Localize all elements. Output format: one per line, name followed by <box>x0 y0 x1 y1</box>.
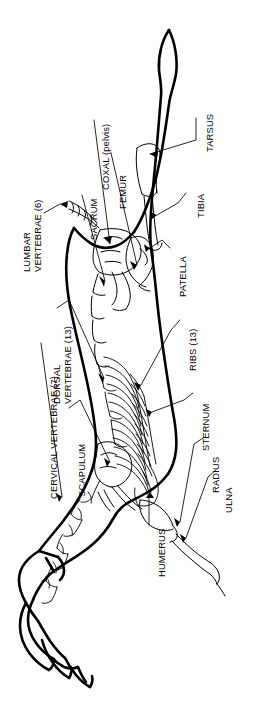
label-ribs: RIBS (13) <box>188 328 199 371</box>
label-dorsal-vertebrae-line2: VERTEBRAE (13) <box>62 326 73 404</box>
label-humerus-line1: HUMERUS <box>156 529 167 577</box>
pelvis-and-lumbar <box>69 201 141 367</box>
label-femur: FEMUR <box>118 175 129 209</box>
label-ulna: ULNA <box>224 487 235 513</box>
label-patella: PATELLA <box>178 256 189 297</box>
label-lumbar-vertebrae: LUMBAR VERTEBRAE (6) <box>21 199 43 272</box>
label-scapulum-line1: SCAPULUM <box>76 444 87 497</box>
label-coxal: COXAL (pelvis) <box>101 124 112 190</box>
skeleton-drawing <box>0 0 275 702</box>
label-lumbar-vertebrae-line1: LUMBAR <box>21 199 32 272</box>
label-sternum-line1: STERNUM <box>200 404 211 451</box>
label-ribs-line1: RIBS (13) <box>187 328 198 371</box>
label-radius: RADIUS <box>211 457 222 493</box>
label-sternum: STERNUM <box>201 404 212 451</box>
label-sacrum-line1: SACRUM <box>88 198 99 240</box>
label-ulna-line1: ULNA <box>223 487 234 513</box>
label-radius-line1: RADIUS <box>210 457 221 493</box>
label-patella-line1: PATELLA <box>177 256 188 297</box>
label-tibia: TIBIA <box>196 194 207 218</box>
label-coxal-line1: COXAL (pelvis) <box>100 124 111 190</box>
label-cervical-vertebrae-line1: CERVICAL VERTEBRAE (7) <box>48 376 59 499</box>
label-humerus: HUMERUS <box>157 529 168 577</box>
label-tarsus: TARSUS <box>205 114 216 152</box>
label-sacrum: SACRUM <box>89 198 100 240</box>
label-tibia-line1: TIBIA <box>195 194 206 218</box>
body-outline <box>19 30 177 687</box>
label-cervical-vertebrae: CERVICAL VERTEBRAE (7) <box>49 376 60 499</box>
label-femur-line1: FEMUR <box>117 175 128 209</box>
label-tarsus-line1: TARSUS <box>204 114 215 152</box>
label-scapulum: SCAPULUM <box>77 444 88 497</box>
rib-cage <box>98 357 158 506</box>
skeleton-diagram: TARSUS COXAL (pelvis) TIBIA FEMUR SACRUM… <box>0 0 275 702</box>
label-lumbar-vertebrae-line2: VERTEBRAE (6) <box>32 199 43 272</box>
